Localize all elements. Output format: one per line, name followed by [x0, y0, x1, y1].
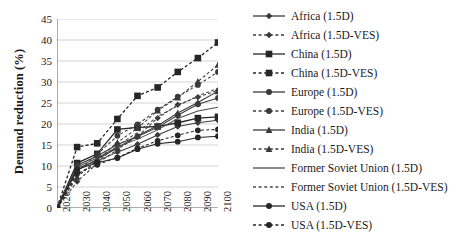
data-point-marker: [155, 138, 161, 144]
data-point-marker: [215, 69, 218, 75]
legend-marker-none-icon: [252, 161, 286, 175]
chart-figure: Demand reduction (%) 051015202530354045 …: [0, 0, 459, 248]
legend-item[interactable]: USA (1.5D): [252, 196, 457, 215]
legend-item[interactable]: Europe (1.5D-VES): [252, 101, 457, 120]
data-point-marker: [266, 31, 273, 38]
data-point-marker: [215, 127, 218, 133]
data-point-marker: [266, 69, 273, 76]
data-point-marker: [266, 203, 272, 209]
data-point-marker: [114, 133, 120, 139]
data-point-marker: [154, 84, 161, 91]
legend-marker-circle-icon: [252, 85, 286, 99]
legend-label: China (1.5D): [291, 48, 352, 60]
legend-item[interactable]: Africa (1.5D): [252, 6, 457, 25]
legend-marker-circle-icon: [252, 199, 286, 213]
data-point-marker: [195, 55, 202, 62]
legend-item[interactable]: India (1.5D): [252, 120, 457, 139]
plot-area: [57, 19, 218, 208]
legend-marker-diamond-icon: [252, 9, 286, 23]
data-point-marker: [195, 99, 202, 105]
legend-label: Africa (1.5D): [291, 10, 354, 22]
legend-label: Africa (1.5D-VES): [291, 29, 379, 41]
legend-item[interactable]: Former Soviet Union (1.5D-VES): [252, 177, 457, 196]
data-point-marker: [266, 108, 272, 114]
legend-item[interactable]: China (1.5D): [252, 44, 457, 63]
legend-label: Europe (1.5D): [291, 86, 357, 98]
chart-canvas: [57, 19, 218, 208]
legend-marker-circle-icon: [252, 218, 286, 232]
legend-label: USA (1.5D): [291, 200, 347, 212]
legend-item[interactable]: USA (1.5D-VES): [252, 215, 457, 234]
legend-item[interactable]: Europe (1.5D): [252, 82, 457, 101]
legend-item[interactable]: Africa (1.5D-VES): [252, 25, 457, 44]
data-point-marker: [175, 132, 181, 138]
legend-item[interactable]: China (1.5D-VES): [252, 63, 457, 82]
data-point-marker: [174, 110, 181, 116]
data-point-marker: [175, 139, 181, 145]
data-point-marker: [195, 115, 202, 122]
data-point-marker: [174, 69, 181, 76]
data-point-marker: [195, 127, 201, 133]
legend-label: India (1.5D-VES): [291, 143, 373, 155]
data-point-marker: [195, 135, 201, 141]
legend-marker-triangle-icon: [252, 142, 286, 156]
data-point-marker: [74, 171, 80, 177]
data-point-marker: [215, 114, 218, 121]
legend-label: USA (1.5D-VES): [291, 219, 372, 231]
legend-item[interactable]: Former Soviet Union (1.5D): [252, 158, 457, 177]
data-point-marker: [154, 132, 160, 138]
data-point-marker: [135, 145, 141, 151]
legend-marker-diamond-icon: [252, 28, 286, 42]
data-point-marker: [266, 222, 272, 228]
legend-label: Former Soviet Union (1.5D): [291, 162, 422, 174]
legend-label: India (1.5D): [291, 124, 348, 136]
data-point-marker: [266, 50, 273, 57]
data-point-marker: [215, 133, 218, 139]
legend-marker-square-icon: [252, 47, 286, 61]
series-line: [57, 72, 218, 208]
data-point-marker: [266, 12, 273, 19]
data-point-marker: [215, 95, 218, 101]
legend-label: Europe (1.5D-VES): [291, 105, 383, 117]
data-point-marker: [74, 144, 81, 151]
x-tick-label: 2100: [222, 178, 233, 212]
data-point-marker: [94, 140, 101, 147]
data-point-marker: [266, 89, 272, 95]
series-line: [57, 98, 218, 208]
legend-label: Former Soviet Union (1.5D-VES): [291, 181, 448, 193]
data-point-marker: [114, 155, 120, 161]
data-point-marker: [215, 39, 218, 46]
legend-item[interactable]: India (1.5D-VES): [252, 139, 457, 158]
legend-marker-none-icon: [252, 180, 286, 194]
data-point-marker: [114, 126, 121, 133]
data-point-marker: [134, 93, 141, 100]
chart-legend: Africa (1.5D)Africa (1.5D-VES)China (1.5…: [252, 6, 457, 234]
legend-marker-triangle-icon: [252, 123, 286, 137]
legend-marker-circle-icon: [252, 104, 286, 118]
data-point-marker: [94, 162, 100, 168]
data-point-marker: [114, 116, 121, 123]
legend-marker-square-icon: [252, 66, 286, 80]
legend-label: China (1.5D-VES): [291, 67, 377, 79]
